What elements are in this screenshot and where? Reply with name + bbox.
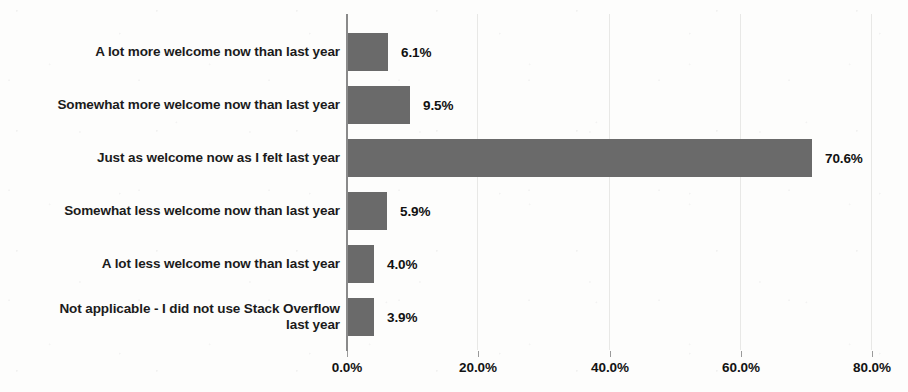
chart-row: Not applicable - I did not use Stack Ove… bbox=[0, 298, 908, 336]
category-label-5: Not applicable - I did not use Stack Ove… bbox=[34, 301, 340, 333]
value-label-3: 5.9% bbox=[400, 204, 430, 219]
value-label-1: 9.5% bbox=[423, 98, 453, 113]
category-label-1-line-0: Somewhat more welcome now than last year bbox=[57, 97, 340, 112]
bar-group-2: 70.6% bbox=[348, 139, 863, 177]
category-label-3-line-0: Somewhat less welcome now than last year bbox=[64, 203, 340, 218]
chart-row: A lot more welcome now than last year 6.… bbox=[0, 33, 908, 71]
bar-1 bbox=[348, 86, 410, 124]
x-tick-label-0: 0.0% bbox=[332, 360, 362, 375]
value-label-0: 6.1% bbox=[401, 45, 431, 60]
bar-group-5: 3.9% bbox=[348, 298, 417, 336]
bar-4 bbox=[348, 245, 374, 283]
bar-chart: A lot more welcome now than last year 6.… bbox=[0, 0, 908, 392]
category-label-4: A lot less welcome now than last year bbox=[34, 256, 340, 272]
bar-2 bbox=[348, 139, 812, 177]
x-tick-mark-0 bbox=[347, 351, 348, 357]
value-label-2: 70.6% bbox=[825, 151, 863, 166]
x-tick-label-4: 80.0% bbox=[853, 360, 891, 375]
bar-0 bbox=[348, 33, 388, 71]
value-label-5: 3.9% bbox=[387, 310, 417, 325]
x-tick-label-3: 60.0% bbox=[722, 360, 760, 375]
bar-group-4: 4.0% bbox=[348, 245, 417, 283]
x-tick-label-2: 40.0% bbox=[591, 360, 629, 375]
bar-3 bbox=[348, 192, 387, 230]
chart-row: Somewhat more welcome now than last year… bbox=[0, 86, 908, 124]
category-label-2: Just as welcome now as I felt last year bbox=[34, 150, 340, 166]
x-tick-label-1: 20.0% bbox=[459, 360, 497, 375]
chart-row: A lot less welcome now than last year 4.… bbox=[0, 245, 908, 283]
bar-group-0: 6.1% bbox=[348, 33, 431, 71]
bar-5 bbox=[348, 298, 374, 336]
category-label-5-line-0: Not applicable - I did not use Stack Ove… bbox=[59, 301, 340, 316]
x-tick-mark-4 bbox=[872, 351, 873, 357]
chart-row: Somewhat less welcome now than last year… bbox=[0, 192, 908, 230]
value-label-4: 4.0% bbox=[387, 257, 417, 272]
x-tick-mark-1 bbox=[478, 351, 479, 357]
category-label-0: A lot more welcome now than last year bbox=[34, 44, 340, 60]
category-label-5-line-1: last year bbox=[286, 317, 340, 332]
category-label-0-line-0: A lot more welcome now than last year bbox=[95, 44, 340, 59]
category-label-3: Somewhat less welcome now than last year bbox=[34, 203, 340, 219]
x-tick-mark-3 bbox=[741, 351, 742, 357]
bar-group-1: 9.5% bbox=[348, 86, 453, 124]
x-tick-mark-2 bbox=[610, 351, 611, 357]
category-label-1: Somewhat more welcome now than last year bbox=[34, 97, 340, 113]
chart-row: Just as welcome now as I felt last year … bbox=[0, 139, 908, 177]
category-label-4-line-0: A lot less welcome now than last year bbox=[102, 256, 340, 271]
bar-group-3: 5.9% bbox=[348, 192, 430, 230]
category-label-2-line-0: Just as welcome now as I felt last year bbox=[97, 150, 340, 165]
